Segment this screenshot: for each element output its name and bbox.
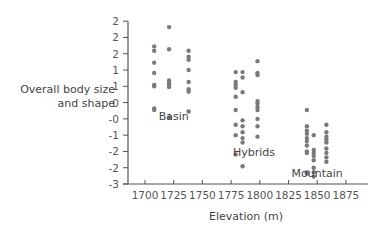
data-point xyxy=(305,139,309,143)
y-tick-label: -2 xyxy=(109,145,119,157)
data-point xyxy=(233,123,237,127)
x-tick-label: 1850 xyxy=(304,189,331,201)
data-point xyxy=(240,70,244,74)
data-point xyxy=(255,124,259,128)
data-point xyxy=(240,90,244,94)
data-point xyxy=(255,117,259,121)
y-tick-label: 2 xyxy=(112,31,119,43)
data-point xyxy=(305,124,309,128)
axes xyxy=(123,21,368,184)
data-point xyxy=(240,140,244,144)
scatter-chart: 17001725175017751800182518501875 222110-… xyxy=(0,0,373,233)
data-point xyxy=(240,164,244,168)
y-tick-label: -0 xyxy=(109,113,119,125)
data-point xyxy=(240,136,244,140)
x-axis-title: Elevation (m) xyxy=(209,210,283,223)
y-tick-label: -2 xyxy=(109,162,119,174)
y-axis-title-line2: and shape xyxy=(20,97,115,111)
x-tick-label: 1875 xyxy=(333,189,360,201)
group-label-basin: Basin xyxy=(159,110,189,123)
data-point xyxy=(240,130,244,134)
data-point xyxy=(152,49,156,53)
data-point xyxy=(305,143,309,147)
data-point xyxy=(324,146,328,150)
y-tick-label: 1 xyxy=(112,64,119,76)
data-point xyxy=(233,133,237,137)
data-point xyxy=(152,71,156,75)
data-point xyxy=(324,123,328,127)
data-point xyxy=(152,108,156,112)
data-point xyxy=(324,151,328,155)
data-point xyxy=(324,160,328,164)
y-tick-label: -1 xyxy=(109,129,119,141)
data-point xyxy=(255,73,259,77)
data-point xyxy=(255,59,259,63)
data-point xyxy=(240,124,244,128)
x-tick-label: 1825 xyxy=(275,189,302,201)
data-point xyxy=(233,94,237,98)
data-point xyxy=(255,108,259,112)
data-point xyxy=(324,140,328,144)
data-point xyxy=(186,80,190,84)
y-tick-label: 2 xyxy=(112,48,119,60)
data-point xyxy=(152,84,156,88)
group-labels: BasinHybridsMountain xyxy=(159,110,343,179)
x-axis-ticks: 17001725175017751800182518501875 xyxy=(132,180,360,201)
data-point xyxy=(152,60,156,64)
data-point xyxy=(240,118,244,122)
data-point xyxy=(167,85,171,89)
data-point xyxy=(233,108,237,112)
data-point xyxy=(186,57,190,61)
x-tick-label: 1800 xyxy=(246,189,273,201)
data-point xyxy=(312,133,316,137)
y-axis-title: Overall body size and shape xyxy=(20,83,115,111)
x-tick-label: 1750 xyxy=(189,189,216,201)
data-point xyxy=(186,68,190,72)
data-point xyxy=(186,89,190,93)
group-label-hybrids: Hybrids xyxy=(233,146,275,159)
data-point xyxy=(305,151,309,155)
data-point xyxy=(312,158,316,162)
data-point xyxy=(305,131,309,135)
data-point xyxy=(255,134,259,138)
data-point xyxy=(186,49,190,53)
data-point xyxy=(324,130,328,134)
data-point xyxy=(312,154,316,158)
data-point xyxy=(240,75,244,79)
x-tick-label: 1725 xyxy=(160,189,187,201)
data-point xyxy=(167,25,171,29)
data-point xyxy=(233,70,237,74)
data-point xyxy=(167,47,171,51)
data-point xyxy=(233,86,237,90)
data-point xyxy=(305,108,309,112)
data-point xyxy=(324,155,328,159)
y-tick-label: -3 xyxy=(109,178,119,190)
data-point xyxy=(152,44,156,48)
x-tick-label: 1700 xyxy=(132,189,159,201)
x-tick-label: 1775 xyxy=(218,189,245,201)
series-basin xyxy=(152,25,191,120)
y-tick-label: 2 xyxy=(112,15,119,27)
group-label-mountain: Mountain xyxy=(292,167,343,180)
y-axis-title-line1: Overall body size xyxy=(20,83,115,97)
